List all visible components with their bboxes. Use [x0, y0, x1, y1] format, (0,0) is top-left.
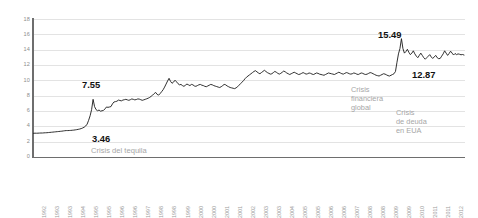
- x-tick-label: 10/06/2004: [290, 206, 295, 218]
- x-tick-label: 08/05/2001: [225, 206, 230, 218]
- y-tick-label: 14: [6, 47, 30, 53]
- y-tick-label: 0: [6, 154, 30, 160]
- y-tick-label: 16: [6, 32, 30, 38]
- chart-container: 024681012141618 7.55 3.46 15.49 12.87 Cr…: [0, 0, 478, 218]
- annotation-crisis-tequila: Crisis del tequila: [91, 146, 147, 155]
- x-axis-line: [32, 157, 465, 158]
- data-label-peak-2009: 15.49: [378, 30, 401, 39]
- x-tick-label: 28/06/1994: [81, 206, 86, 218]
- y-axis-line: [32, 18, 34, 158]
- x-tick-label: 23/12/1996: [133, 206, 138, 218]
- annotation-line: financiera: [351, 94, 383, 103]
- x-tick-label: 14/05/1996: [120, 206, 125, 218]
- annotation-crisis-deuda-eua: Crisis de deuda en EUA: [396, 108, 427, 136]
- x-tick-label: 09/11/1998: [172, 206, 177, 218]
- annotation-line: en EUA: [396, 126, 427, 135]
- x-tick-label: 31/12/2009: [407, 206, 412, 218]
- x-tick-label: 17/01/2005: [303, 206, 308, 218]
- gridline: [33, 50, 465, 51]
- x-tick-label: 03/02/2000: [199, 206, 204, 218]
- x-tick-label: 26/08/2005: [316, 206, 321, 218]
- x-tick-label: 21/05/2009: [394, 206, 399, 218]
- annotation-crisis-financiera-global: Crisis financiera global: [351, 85, 383, 113]
- x-tick-label: 25/03/1998: [159, 206, 164, 218]
- x-tick-label: 27/10/2003: [277, 206, 282, 218]
- y-tick-label: 18: [6, 17, 30, 23]
- data-label-peak-1995: 7.55: [82, 80, 100, 89]
- x-tick-label: 25/09/1995: [107, 206, 112, 218]
- data-label-trough-2011: 12.87: [412, 70, 435, 79]
- x-tick-label: 22/06/2012: [459, 206, 464, 218]
- data-label-pre-crisis-low: 3.46: [92, 134, 110, 143]
- x-axis-ticks: 13/08/199231/03/199315/11/199328/06/1994…: [0, 160, 478, 218]
- gridline: [33, 19, 465, 20]
- x-tick-label: 20/02/2008: [368, 206, 373, 218]
- annotation-line: de deuda: [396, 117, 427, 126]
- x-tick-label: 24/06/1999: [186, 206, 191, 218]
- x-tick-label: 31/03/1993: [55, 206, 60, 218]
- x-tick-label: 15/11/1993: [68, 206, 73, 218]
- x-tick-label: 13/08/1992: [42, 206, 47, 218]
- x-tick-label: 08/02/1995: [94, 206, 99, 218]
- x-tick-label: 16/09/2000: [212, 206, 217, 218]
- y-tick-label: 2: [6, 139, 30, 145]
- annotation-line: Crisis: [351, 85, 383, 94]
- y-tick-label: 10: [6, 78, 30, 84]
- annotation-line: Crisis: [396, 108, 427, 117]
- y-tick-label: 6: [6, 108, 30, 114]
- x-tick-label: 08/11/2011: [446, 206, 451, 218]
- x-tick-label: 13/08/2010: [420, 206, 425, 218]
- x-tick-label: 02/10/2008: [381, 206, 386, 218]
- x-tick-label: 29/03/2011: [433, 206, 438, 218]
- y-tick-label: 12: [6, 62, 30, 68]
- x-tick-label: 03/04/2006: [329, 206, 334, 218]
- x-tick-label: 14/03/2003: [264, 206, 269, 218]
- y-tick-label: 4: [6, 123, 30, 129]
- x-tick-label: 31/07/2002: [251, 206, 256, 218]
- x-tick-label: 09/07/2007: [355, 206, 360, 218]
- annotation-line: global: [351, 103, 383, 112]
- x-tick-label: 17/11/2006: [342, 206, 347, 218]
- x-tick-label: 08/08/1997: [146, 206, 151, 218]
- gridline: [33, 96, 465, 97]
- y-tick-label: 8: [6, 93, 30, 99]
- gridline: [33, 65, 465, 66]
- x-tick-label: 14/12/2001: [238, 206, 243, 218]
